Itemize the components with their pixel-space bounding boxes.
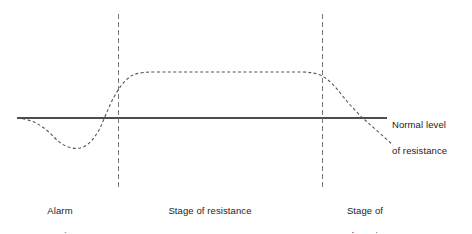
gas-stress-response-diagram: Normal level of resistance Alarm reactio… (0, 0, 472, 233)
normal-level-label-line2: of resistance (392, 144, 472, 157)
stage-label-alarm-reaction: Alarm reaction (10, 192, 110, 233)
stage-label-stage-of-exhaustion: Stage of exhaustion (320, 192, 410, 233)
normal-level-label: Normal level of resistance (392, 105, 472, 170)
stage-label-stage-of-resistance-line1: Stage of resistance (140, 205, 280, 218)
resistance-curve (17, 72, 393, 148)
stage-label-alarm-reaction-line1: Alarm (10, 205, 110, 218)
stage-label-stage-of-exhaustion-line2: exhaustion (320, 230, 410, 234)
stage-label-alarm-reaction-line2: reaction (10, 230, 110, 234)
stage-label-stage-of-exhaustion-line1: Stage of (320, 205, 410, 218)
normal-level-label-line1: Normal level (392, 118, 472, 131)
stage-label-stage-of-resistance: Stage of resistance (140, 192, 280, 230)
